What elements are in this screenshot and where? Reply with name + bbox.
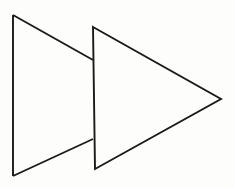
triangles-drawing: Two Overlapping Triangles Black line-art…	[0, 0, 235, 188]
figure-canvas: Two Overlapping Triangles Black line-art…	[0, 0, 235, 188]
